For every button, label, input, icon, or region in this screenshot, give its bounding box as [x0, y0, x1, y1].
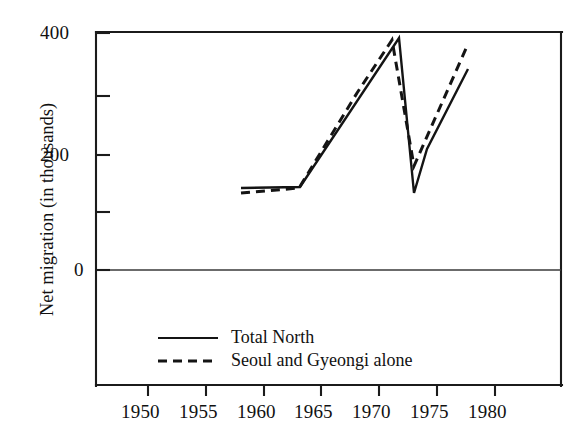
legend-label-total-north: Total North — [220, 327, 314, 348]
x-tick-label-1960: 1960 — [237, 401, 276, 423]
x-tick-label-1975: 1975 — [410, 401, 449, 423]
legend-item-total-north: Total North — [158, 326, 438, 349]
series-seoul-gyeongi — [241, 40, 468, 193]
y-tick-label-0: 0 — [74, 259, 84, 281]
x-tick-label-1955: 1955 — [179, 401, 218, 423]
legend-dashed-line-icon — [158, 355, 220, 367]
migration-line-chart: 400 200 0 Net migration (in thousands) 1… — [0, 0, 582, 443]
legend-label-seoul-gyeongi: Seoul and Gyeongi alone — [220, 350, 412, 371]
x-tick-label-1970: 1970 — [352, 401, 391, 423]
plot-canvas — [0, 0, 582, 443]
legend-solid-line-icon — [158, 332, 220, 344]
chart-legend: Total North Seoul and Gyeongi alone — [158, 326, 438, 372]
x-tick-label-1950: 1950 — [121, 401, 160, 423]
x-tick-label-1980: 1980 — [468, 401, 507, 423]
legend-item-seoul-gyeongi: Seoul and Gyeongi alone — [158, 349, 438, 372]
y-axis-title: Net migration (in thousands) — [37, 103, 58, 316]
series-total-north — [241, 38, 468, 193]
x-tick-label-1965: 1965 — [294, 401, 333, 423]
y-tick-label-400: 400 — [40, 22, 69, 44]
